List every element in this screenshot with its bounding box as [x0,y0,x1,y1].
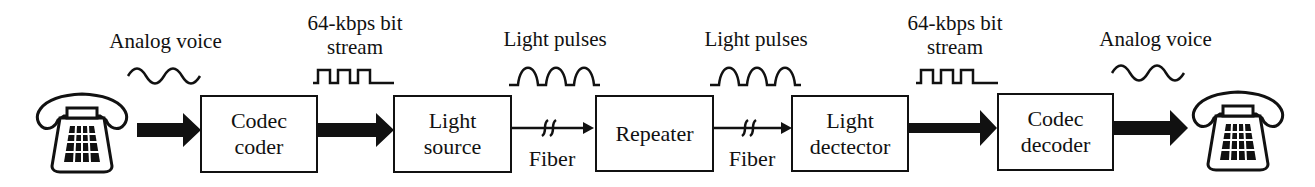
fiber-label: Fiber [717,147,787,170]
codec-coder-block: Codec coder [200,95,318,173]
block-label: Light [826,108,874,134]
thick-arrow-icon [137,113,201,147]
telephone-icon [37,94,126,172]
light-source-block: Light source [393,95,512,173]
thick-arrow-icon [317,113,394,147]
block-label: Codec [231,108,287,134]
codec-decoder-block: Codec decoder [997,93,1114,171]
square-wave-icon [916,70,998,83]
signal-label: stream [290,36,420,59]
repeater-block: Repeater [595,95,714,172]
block-label: coder [235,134,284,160]
sine-wave-icon [128,69,200,84]
signal-label: stream [890,36,1020,59]
fiber-label: Fiber [517,147,587,170]
thick-arrow-icon [1113,110,1188,146]
signal-label: Analog voice [93,30,238,53]
signal-label: 64-kbps bit [890,12,1020,35]
block-label: Repeater [615,121,693,147]
block-label: Light [429,108,477,134]
sine-wave-icon [1112,66,1184,81]
signal-label: 64-kbps bit [290,12,420,35]
light-pulse-icon [509,68,600,85]
block-label: source [424,134,481,160]
signal-label: Light pulses [686,28,826,51]
block-label: decoder [1021,132,1091,158]
block-label: Codec [1027,106,1083,132]
signal-label: Light pulses [485,28,625,51]
telephone-icon [1193,92,1282,170]
block-label: dectector [810,134,891,160]
thick-arrow-icon [908,110,997,146]
light-detector-block: Light dectector [791,95,909,172]
light-pulse-icon [710,68,801,85]
signal-label: Analog voice [1083,28,1228,51]
square-wave-icon [313,70,394,83]
